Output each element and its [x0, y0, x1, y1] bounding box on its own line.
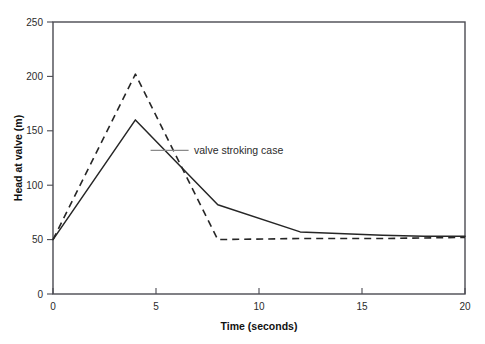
y-tick-label: 100 [26, 180, 43, 191]
y-tick-label: 250 [26, 17, 43, 28]
x-axis-tick-labels: 0 5 10 15 20 [50, 301, 471, 312]
x-tick-label: 20 [459, 301, 471, 312]
plot-frame [53, 22, 465, 294]
x-tick-label: 0 [50, 301, 56, 312]
y-tick-label: 0 [37, 289, 43, 300]
x-tick-label: 5 [153, 301, 159, 312]
y-tick-label: 150 [26, 125, 43, 136]
chart-figure: 0 50 100 150 200 250 0 5 10 15 20 Time (… [0, 0, 485, 344]
head-at-valve-line-chart: 0 50 100 150 200 250 0 5 10 15 20 Time (… [0, 0, 485, 344]
annotation-label-valve-stroking-case: valve stroking case [194, 144, 283, 156]
y-axis-title: Head at valve (m) [12, 115, 24, 201]
x-axis-title: Time (seconds) [221, 320, 298, 332]
x-tick-label: 10 [253, 301, 265, 312]
y-tick-label: 200 [26, 71, 43, 82]
y-axis-ticks [47, 22, 53, 294]
x-axis-ticks [53, 288, 465, 294]
y-axis-tick-labels: 0 50 100 150 200 250 [26, 17, 43, 300]
x-tick-label: 15 [356, 301, 368, 312]
series-line-valve-stroking [53, 120, 465, 240]
y-tick-label: 50 [32, 234, 44, 245]
series-line-rapid-closure [53, 74, 465, 239]
